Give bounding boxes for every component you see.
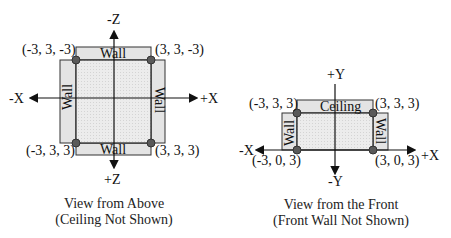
- axis-label-neg-z: -Z: [107, 12, 120, 27]
- corner-label-top-left: (-3, 3, -3): [22, 42, 76, 58]
- room-coordinate-diagram: -Z +Z -X +X (-3, 3, -3) (3, 3, -3) (-3, …: [0, 0, 451, 238]
- wall-label-left: Wall: [282, 120, 297, 146]
- corner-label-bottom-left: (-3, 0, 3): [252, 153, 301, 169]
- corner-dot: [147, 56, 155, 64]
- ceiling-label: Ceiling: [320, 99, 361, 114]
- caption-top-view-line1: View from Above: [64, 196, 164, 211]
- corner-label-bottom-right: (3, 0, 3): [375, 153, 420, 169]
- caption-front-view-line2: (Front Wall Not Shown): [273, 213, 409, 229]
- caption-front-view-line1: View from the Front: [284, 197, 399, 212]
- axis-label-neg-x: -X: [9, 91, 24, 106]
- corner-label-top-right: (3, 3, -3): [155, 42, 204, 58]
- wall-label-left: Wall: [60, 84, 75, 110]
- axis-label-pos-z: +Z: [104, 172, 120, 187]
- wall-label-top: Wall: [100, 46, 126, 61]
- axis-label-pos-x: +X: [421, 148, 439, 163]
- axis-label-neg-y: -Y: [328, 174, 343, 189]
- top-view-diagram: -Z +Z -X +X (-3, 3, -3) (3, 3, -3) (-3, …: [9, 12, 218, 228]
- corner-dot: [147, 139, 155, 147]
- front-view-diagram: +Y -Y -X +X (-3, 3, 3) (3, 3, 3) (-3, 0,…: [239, 67, 439, 229]
- wall-label-right: Wall: [373, 118, 388, 144]
- corner-label-top-left: (-3, 3, 3): [249, 96, 298, 112]
- wall-label-bottom: Wall: [100, 142, 126, 157]
- axis-label-pos-x: +X: [200, 91, 218, 106]
- corner-dot: [72, 56, 80, 64]
- corner-label-bottom-left: (-3, 3, 3): [26, 143, 75, 159]
- caption-top-view-line2: (Ceiling Not Shown): [55, 212, 173, 228]
- axis-label-pos-y: +Y: [327, 67, 345, 82]
- corner-label-top-right: (3, 3, 3): [375, 96, 420, 112]
- corner-label-bottom-right: (3, 3, 3): [155, 143, 200, 159]
- wall-label-right: Wall: [152, 87, 167, 113]
